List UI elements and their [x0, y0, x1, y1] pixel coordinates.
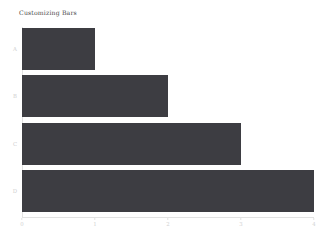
ytick-label-a: A: [13, 46, 17, 52]
xtick-4: 4: [312, 218, 315, 228]
bar-c[interactable]: [22, 123, 241, 165]
ytick-label-d: D: [13, 188, 17, 194]
xtick-label: 3: [239, 220, 242, 228]
xtick-3: 3: [239, 218, 242, 228]
chart-figure: Customizing Bars A B C D 0 1: [0, 0, 328, 239]
chart-title: Customizing Bars: [19, 8, 77, 17]
xtick-label: 4: [312, 220, 315, 228]
ytick-label-b: B: [13, 93, 17, 99]
xtick-label: 1: [93, 220, 96, 228]
bar-row: A: [22, 28, 314, 70]
xtick-2: 2: [166, 218, 169, 228]
xtick-1: 1: [93, 218, 96, 228]
xtick-0: 0: [20, 218, 23, 228]
bar-row: B: [22, 75, 314, 117]
bar-d[interactable]: [22, 170, 314, 212]
ytick-label-c: C: [13, 141, 17, 147]
bar-b[interactable]: [22, 75, 168, 117]
bar-a[interactable]: [22, 28, 95, 70]
xtick-label: 0: [20, 220, 23, 228]
plot-area: A B C D: [22, 27, 314, 217]
bar-row: D: [22, 170, 314, 212]
xtick-label: 2: [166, 220, 169, 228]
bar-row: C: [22, 123, 314, 165]
